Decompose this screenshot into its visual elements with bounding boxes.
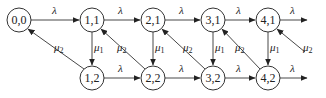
svg-text:2,2: 2,2 [146,71,161,85]
svg-text:μ2: μ2 [302,41,313,55]
node-2-1: 2,1 [141,8,165,32]
node-4-1: 4,1 [256,8,280,32]
svg-text:3,2: 3,2 [206,71,221,85]
svg-text:μ2: μ2 [53,41,64,55]
svg-text:λ: λ [289,62,295,74]
svg-text:μ1: μ1 [214,41,225,55]
svg-text:μ2: μ2 [116,41,127,55]
node-3-2: 3,2 [201,66,225,90]
svg-text:2,1: 2,1 [146,13,161,27]
svg-text:λ: λ [178,4,184,16]
node-2-2: 2,2 [141,66,165,90]
svg-text:4,2: 4,2 [261,71,276,85]
svg-text:λ: λ [289,4,295,16]
svg-text:λ: λ [235,4,241,16]
node-1-1: 1,1 [80,8,104,32]
svg-text:4,1: 4,1 [261,13,276,27]
svg-text:0,0: 0,0 [12,13,27,27]
svg-text:μ1: μ1 [154,41,165,55]
node-1-2: 1,2 [80,66,104,90]
node-4-2: 4,2 [256,66,280,90]
svg-text:1,1: 1,1 [85,13,100,27]
svg-text:λ: λ [117,62,123,74]
svg-text:λ: λ [117,4,123,16]
svg-text:λ: λ [235,62,241,74]
svg-text:λ: λ [178,62,184,74]
svg-text:μ1: μ1 [269,41,280,55]
svg-text:μ2: μ2 [234,41,245,55]
svg-text:3,1: 3,1 [206,13,221,27]
state-diagram: λ λ λ λ λ λ λ λ λ μ1 μ1 μ1 μ1 μ2 μ2 μ2 μ… [0,0,326,98]
svg-text:μ2: μ2 [182,41,193,55]
node-3-1: 3,1 [201,8,225,32]
svg-text:λ: λ [51,4,57,16]
node-0-0: 0,0 [7,8,31,32]
svg-text:μ1: μ1 [93,41,104,55]
mu2-edges [28,29,305,69]
svg-text:1,2: 1,2 [85,71,100,85]
